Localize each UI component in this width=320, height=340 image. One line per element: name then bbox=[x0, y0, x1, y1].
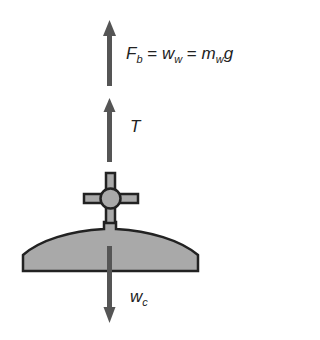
buoyant-force-label: Fb = ww = mwg bbox=[126, 44, 233, 65]
buoyant-force-arrow bbox=[103, 20, 116, 86]
tension-label: T bbox=[130, 117, 140, 137]
tension-arrow bbox=[104, 98, 116, 162]
weight-label: wc bbox=[130, 287, 148, 308]
